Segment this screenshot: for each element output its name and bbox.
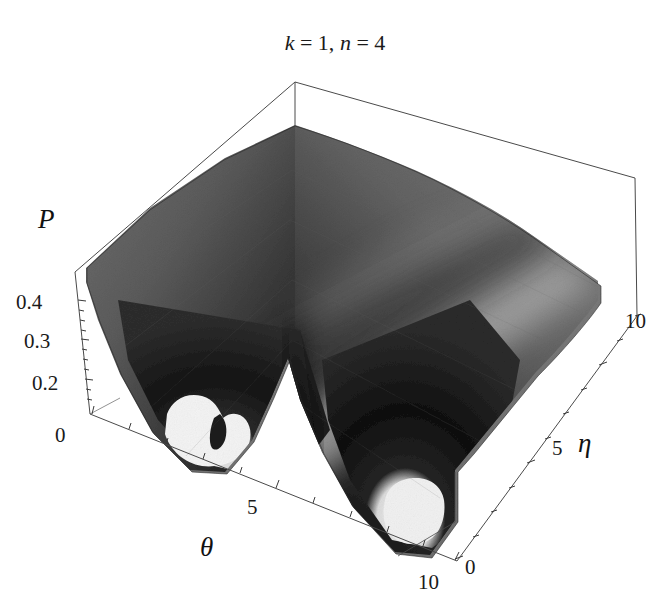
chart-title: k = 1, n = 4: [285, 30, 386, 55]
back-bottom-left-edge: [90, 398, 120, 414]
title-k-value: = 1,: [294, 30, 339, 55]
x-axis-label: θ: [200, 532, 213, 562]
surface-plot-canvas: 0.4 0.3 0.2 0 5 10 0 5 10 P θ η k = 1, n…: [0, 0, 670, 615]
y-tick-label-5: 5: [552, 436, 563, 460]
title-n-value: = 4: [351, 30, 385, 55]
right-vertical-frame: [635, 178, 637, 316]
z-tick-label-0: 0.4: [16, 290, 43, 314]
z-tick-label-2: 0.2: [32, 371, 58, 395]
y-tick-label-0: 0: [465, 555, 476, 579]
y-tick-label-10: 10: [625, 309, 646, 333]
svg-text:k = 1, n = 4: k = 1, n = 4: [285, 30, 386, 55]
z-axis-line: [75, 272, 90, 414]
y-axis-label: η: [578, 428, 591, 458]
surface-plot-figure: 0.4 0.3 0.2 0 5 10 0 5 10 P θ η k = 1, n…: [0, 0, 670, 615]
z-axis-label: P: [37, 204, 55, 234]
surface-mesh: [80, 120, 615, 580]
x-tick-label-5: 5: [247, 495, 258, 519]
x-tick-label-0: 0: [55, 423, 66, 447]
z-axis-ticks: [78, 300, 93, 400]
x-tick-label-10: 10: [418, 570, 439, 594]
z-tick-label-1: 0.3: [24, 329, 50, 353]
title-n-symbol: n: [340, 30, 351, 55]
